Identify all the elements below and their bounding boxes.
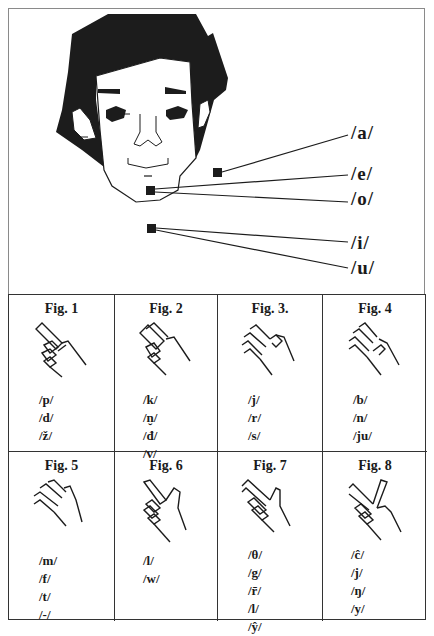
vowel-label-u: /u/ <box>351 257 375 279</box>
phoneme: /w/ <box>143 570 160 588</box>
phoneme: /j/ <box>248 391 261 409</box>
phoneme-list: /p/ /d/ /ž/ <box>39 391 53 445</box>
vowel-label-e: /e/ <box>351 163 373 185</box>
figure-title: Fig. 6 <box>115 458 217 474</box>
figure-title: Fig. 4 <box>323 301 427 317</box>
phoneme: /b/ <box>353 391 372 409</box>
phoneme: /ŷ/ <box>248 618 262 636</box>
phoneme: /j/ <box>351 564 365 582</box>
leader-u <box>156 230 348 268</box>
figure-title: Fig. 3. <box>218 301 322 317</box>
phoneme: /n̮/ <box>143 409 157 427</box>
figure-title: Fig. 7 <box>218 458 322 474</box>
phoneme-list: /ĉ/ /j/ /ŋ/ /y/ <box>351 546 365 618</box>
figure-cell-4: Fig. 4 /b/ /n/ /ju/ <box>323 295 427 452</box>
phoneme: /d/ <box>39 409 53 427</box>
figure-cell-7: Fig. 7 /θ/ /g/ /r̄/ /l/ /ŷ/ <box>218 452 323 621</box>
phoneme: /r/ <box>248 409 261 427</box>
phoneme: /θ/ <box>248 546 262 564</box>
hand-two-finger-point-icon <box>136 321 196 381</box>
leader-o <box>155 192 348 202</box>
phoneme: /-/ <box>39 606 57 624</box>
vowel-label-i: /i/ <box>351 232 370 254</box>
leader-e <box>155 175 348 189</box>
phoneme-list: /m/ /f/ /t/ /-/ <box>39 552 57 624</box>
leader-i <box>156 228 348 242</box>
figure-title: Fig. 8 <box>323 458 427 474</box>
hand-thumb-touch-icon <box>240 321 300 381</box>
handshape-figure-grid: Fig. 1 /p/ /d/ /ž/ Fig. 2 <box>8 294 426 620</box>
figure-title: Fig. 5 <box>9 458 114 474</box>
phoneme: /ž/ <box>39 427 53 445</box>
phoneme: /y/ <box>351 600 365 618</box>
phoneme: /g/ <box>248 564 262 582</box>
phoneme: /l/ <box>248 600 262 618</box>
phoneme: /n/ <box>353 409 372 427</box>
hand-flat-thumb-out-icon <box>345 321 405 381</box>
phoneme: /r̄/ <box>248 582 262 600</box>
phoneme-list: /j/ /r/ /s/ <box>248 391 261 445</box>
phoneme: /p/ <box>39 391 53 409</box>
vowel-label-o: /o/ <box>351 188 374 210</box>
figure-title: Fig. 1 <box>9 301 114 317</box>
phoneme: /đ/ <box>143 427 157 445</box>
phoneme: /ŋ/ <box>351 582 365 600</box>
phoneme-list: /l/ /w/ <box>143 552 160 588</box>
phoneme: /k/ <box>143 391 157 409</box>
leader-a <box>222 135 348 172</box>
marker-throat <box>147 224 156 233</box>
hand-two-finger-thumb-up-icon <box>240 478 300 538</box>
hand-v-sign-icon <box>345 478 405 544</box>
figure-cell-8: Fig. 8 /ĉ/ /j/ /ŋ/ /y/ <box>323 452 427 621</box>
hand-index-point-icon <box>32 321 92 381</box>
phoneme: /l/ <box>143 552 160 570</box>
marker-cheek <box>213 168 222 177</box>
phoneme: /s/ <box>248 427 261 445</box>
figure-cell-3: Fig. 3. /j/ /r/ /s/ <box>218 295 323 452</box>
marker-chin <box>146 186 155 195</box>
phoneme: /m/ <box>39 552 57 570</box>
figure-cell-5: Fig. 5 /m/ /f/ /t/ /-/ <box>9 452 115 621</box>
figure-cell-1: Fig. 1 /p/ /d/ /ž/ <box>9 295 115 452</box>
figure-cell-2: Fig. 2 /k/ /n̮/ /đ/ /v/ <box>115 295 218 452</box>
hand-index-up-icon <box>136 478 196 544</box>
vowel-label-a: /a/ <box>351 122 374 144</box>
phoneme-list: /θ/ /g/ /r̄/ /l/ /ŷ/ <box>248 546 262 636</box>
phoneme: /ju/ <box>353 427 372 445</box>
phoneme: /t/ <box>39 588 57 606</box>
figure-cell-6: Fig. 6 /l/ /w/ <box>115 452 218 621</box>
phoneme-list: /b/ /n/ /ju/ <box>353 391 372 445</box>
phoneme: /f/ <box>39 570 57 588</box>
hand-open-flat-icon <box>32 478 92 538</box>
figure-title: Fig. 2 <box>115 301 217 317</box>
phoneme: /ĉ/ <box>351 546 365 564</box>
right-ear <box>198 100 210 128</box>
face-outline <box>96 58 196 202</box>
